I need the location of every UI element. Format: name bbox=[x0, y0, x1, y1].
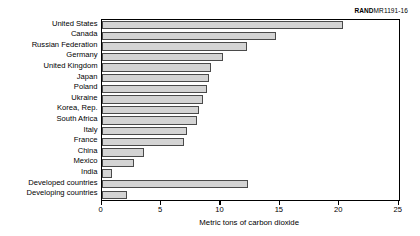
bar-row bbox=[102, 191, 399, 199]
x-axis-tick-labels: 0510152025 bbox=[101, 205, 399, 215]
bar-row bbox=[102, 42, 399, 50]
y-axis-labels: United StatesCanadaRussian FederationGer… bbox=[0, 19, 98, 199]
rand-report-code: MR1191-16 bbox=[374, 7, 408, 14]
y-axis-label: Germany bbox=[2, 51, 98, 59]
bar bbox=[102, 159, 134, 167]
y-axis-label: Korea, Rep. bbox=[2, 104, 98, 112]
bar bbox=[102, 53, 223, 61]
bar bbox=[102, 74, 209, 82]
y-axis-label: Mexico bbox=[2, 157, 98, 165]
bar bbox=[102, 32, 277, 40]
y-axis-label: Developing countries bbox=[2, 189, 98, 197]
bar bbox=[102, 169, 113, 177]
bar-row bbox=[102, 138, 399, 146]
bar bbox=[102, 106, 199, 114]
bar bbox=[102, 148, 145, 156]
y-axis-label: Canada bbox=[2, 30, 98, 38]
chart-figure: RANDMR1191-16 United StatesCanadaRussian… bbox=[0, 0, 420, 236]
bar bbox=[102, 191, 127, 199]
bar-row bbox=[102, 63, 399, 71]
bar bbox=[102, 180, 248, 188]
x-axis-tick-label: 0 bbox=[99, 205, 103, 214]
x-axis-tick-label: 5 bbox=[158, 205, 162, 214]
y-axis-label: India bbox=[2, 168, 98, 176]
bar-row bbox=[102, 116, 399, 124]
x-axis-title: Metric tons of carbon dioxide bbox=[101, 218, 398, 227]
x-axis-tick-label: 20 bbox=[334, 205, 342, 214]
x-axis-tick-label: 15 bbox=[275, 205, 283, 214]
y-axis-label: Ukraine bbox=[2, 94, 98, 102]
bar-row bbox=[102, 106, 399, 114]
plot-area bbox=[101, 19, 400, 201]
bar bbox=[102, 116, 197, 124]
rand-source-tag: RANDMR1191-16 bbox=[354, 7, 408, 15]
y-axis-label: Developed countries bbox=[2, 179, 98, 187]
x-axis-tick-label: 10 bbox=[215, 205, 223, 214]
bar bbox=[102, 127, 188, 135]
bar bbox=[102, 21, 343, 29]
y-axis-label: Italy bbox=[2, 126, 98, 134]
bar-row bbox=[102, 21, 399, 29]
bar-row bbox=[102, 169, 399, 177]
y-axis-label: Japan bbox=[2, 73, 98, 81]
x-axis-tick-label: 25 bbox=[393, 205, 401, 214]
bar-row bbox=[102, 180, 399, 188]
y-axis-label: United States bbox=[2, 20, 98, 28]
bar-row bbox=[102, 159, 399, 167]
bar bbox=[102, 63, 211, 71]
y-axis-label: Russian Federation bbox=[2, 41, 98, 49]
y-axis-label: China bbox=[2, 147, 98, 155]
bar bbox=[102, 85, 208, 93]
rand-brand-label: RAND bbox=[354, 7, 373, 14]
bar bbox=[102, 138, 184, 146]
bar bbox=[102, 42, 247, 50]
bar-row bbox=[102, 127, 399, 135]
bar-row bbox=[102, 74, 399, 82]
y-axis-label: France bbox=[2, 136, 98, 144]
bar-row bbox=[102, 148, 399, 156]
y-axis-label: Poland bbox=[2, 83, 98, 91]
bar-row bbox=[102, 85, 399, 93]
bar-row bbox=[102, 95, 399, 103]
bar-row bbox=[102, 53, 399, 61]
bar bbox=[102, 95, 203, 103]
bar-row bbox=[102, 32, 399, 40]
y-axis-label: South Africa bbox=[2, 115, 98, 123]
y-axis-label: United Kingdom bbox=[2, 62, 98, 70]
